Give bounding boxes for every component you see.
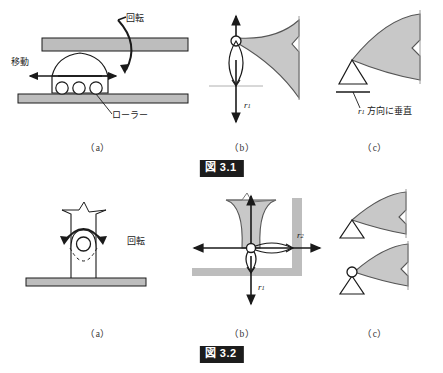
subcaption-a: （a）: [68, 140, 128, 154]
rotation-arrowhead: [120, 64, 129, 74]
ground-bar: [26, 278, 146, 286]
label-reaction-r1: r1: [244, 100, 251, 110]
figure-3-1: 回転 移動 ローラー: [0, 0, 443, 186]
member-break-zigzag: [62, 202, 106, 212]
upper-beam: [42, 38, 188, 51]
figure-caption-label: 図: [205, 347, 217, 359]
figure-3-1-caption-row: 図3.1: [0, 160, 443, 184]
rotation-leader: [118, 17, 126, 20]
figure-caption-number: 3.2: [220, 347, 237, 359]
beam-body-shaded: [352, 14, 420, 80]
note-text: 方向に垂直: [367, 106, 412, 116]
figure-caption-badge: 図3.1: [199, 160, 243, 177]
panel-roller-support-freedoms: r1: [195, 0, 320, 140]
figure-3-1-panels: 回転 移動 ローラー: [0, 0, 443, 140]
figure-3-2-subcaptions: （a） （b） （c）: [0, 326, 443, 346]
label-reaction-r1: r1: [258, 282, 265, 292]
panel-pin-support-freedoms: r1 r2: [180, 186, 330, 326]
beam-body-shaded-upper: [352, 192, 406, 234]
subcaption-a: （a）: [68, 326, 128, 340]
node-circle: [247, 244, 256, 253]
rotation-arrowhead-right: [97, 236, 107, 245]
label-perpendicular-note: r1方向に垂直: [358, 100, 412, 118]
roller-circle: [73, 82, 85, 94]
roller-circle: [90, 82, 102, 94]
figure-3-2-panels: 回転: [0, 186, 443, 326]
figure-3-2: 回転: [0, 186, 443, 373]
reaction-r1-subscript: 1: [262, 284, 265, 291]
subcaption-b: （b）: [212, 326, 272, 340]
label-reaction-r2: r2: [297, 230, 304, 240]
figure-caption-label: 図: [205, 161, 217, 173]
pin-hole: [77, 237, 91, 251]
label-rotation: 回転: [126, 11, 144, 24]
subcaption-b: （b）: [212, 140, 272, 154]
subcaption-c: （c）: [345, 326, 405, 340]
member-right-edge: [96, 210, 106, 278]
panel-pin-support-symbol: [330, 186, 443, 326]
note-var-subscript: 1: [362, 108, 365, 115]
wall-horizontal: [192, 268, 302, 276]
subcaption-c: （c）: [345, 140, 405, 154]
label-rotation: 回転: [127, 234, 145, 247]
panel-pin-support-physical: 回転: [0, 186, 180, 326]
hinge-circle: [347, 267, 357, 277]
reaction-r1-subscript: 1: [248, 102, 251, 109]
member-left-edge: [62, 210, 71, 278]
label-roller: ローラー: [112, 108, 148, 121]
figure-caption-badge: 図3.2: [199, 346, 243, 363]
panel-roller-support-symbol: r1方向に垂直: [320, 0, 443, 140]
figure-3-2-caption-row: 図3.2: [0, 346, 443, 370]
beam-body-shaded-lower: [354, 244, 408, 286]
reaction-r2-subscript: 2: [301, 232, 304, 239]
ground-bar: [18, 94, 188, 103]
figure-caption-number: 3.1: [220, 161, 237, 173]
panel-roller-support-physical: 回転 移動 ローラー: [0, 0, 195, 140]
label-translation: 移動: [11, 55, 29, 68]
support-triangle-lower: [340, 276, 364, 294]
figure-3-1-subcaptions: （a） （b） （c）: [0, 140, 443, 160]
roller-circle: [56, 82, 68, 94]
rotation-arrowhead-left: [60, 236, 70, 245]
